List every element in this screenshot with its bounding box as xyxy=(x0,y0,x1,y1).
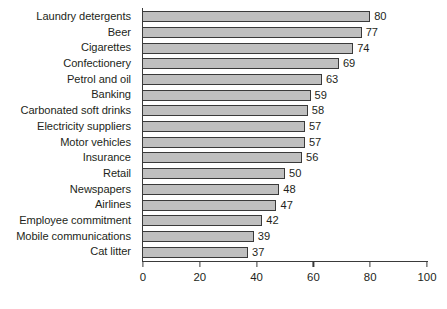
x-axis-ticks xyxy=(143,262,427,267)
bar xyxy=(143,168,285,179)
bar-row: 56 xyxy=(143,150,427,166)
bar xyxy=(143,121,305,132)
category-label: Petrol and oil xyxy=(0,72,137,88)
bar-row: 47 xyxy=(143,197,427,213)
bar xyxy=(143,137,305,148)
bar-value-label: 80 xyxy=(374,11,386,22)
bar xyxy=(143,200,276,211)
bar xyxy=(143,90,311,101)
bar-value-label: 69 xyxy=(343,58,355,69)
x-tick-label: 40 xyxy=(250,270,263,284)
bar-value-label: 74 xyxy=(357,43,369,54)
bar xyxy=(143,43,353,54)
bar-row: 80 xyxy=(143,9,427,25)
bar-value-label: 58 xyxy=(312,105,324,116)
bar-value-label: 37 xyxy=(252,247,264,258)
category-label: Laundry detergents xyxy=(0,9,137,25)
x-tick-mark xyxy=(142,262,143,267)
bar-row: 57 xyxy=(143,119,427,135)
category-label: Beer xyxy=(0,25,137,41)
bar-value-label: 77 xyxy=(366,27,378,38)
category-label: Mobile communications xyxy=(0,229,137,245)
category-axis: Laundry detergentsBeerCigarettesConfecti… xyxy=(0,9,137,260)
bar xyxy=(143,231,254,242)
bar xyxy=(143,27,362,38)
bar xyxy=(143,11,370,22)
bar-value-label: 57 xyxy=(309,137,321,148)
x-tick-label: 80 xyxy=(364,270,377,284)
bar xyxy=(143,247,248,258)
bar-row: 63 xyxy=(143,72,427,88)
bar-value-label: 57 xyxy=(309,121,321,132)
bar xyxy=(143,74,322,85)
bar-row: 48 xyxy=(143,182,427,198)
bar-row: 37 xyxy=(143,244,427,260)
bar-row: 69 xyxy=(143,56,427,72)
bar-value-label: 42 xyxy=(266,215,278,226)
bar-value-label: 47 xyxy=(280,200,292,211)
bar xyxy=(143,105,308,116)
bar-row: 42 xyxy=(143,213,427,229)
bar-value-label: 59 xyxy=(315,90,327,101)
bar-value-label: 50 xyxy=(289,168,301,179)
bar xyxy=(143,215,262,226)
category-label: Banking xyxy=(0,87,137,103)
category-label: Airlines xyxy=(0,197,137,213)
category-label: Cigarettes xyxy=(0,40,137,56)
bar-row: 58 xyxy=(143,103,427,119)
bar-value-label: 56 xyxy=(306,152,318,163)
x-tick-mark xyxy=(313,262,314,267)
category-label: Newspapers xyxy=(0,182,137,198)
bar-value-label: 48 xyxy=(283,184,295,195)
category-label: Cat litter xyxy=(0,244,137,260)
category-label: Carbonated soft drinks xyxy=(0,103,137,119)
x-tick-mark xyxy=(256,262,257,267)
x-axis-tick-labels: 020406080100 xyxy=(143,270,427,288)
bar-row: 77 xyxy=(143,25,427,41)
x-tick-label: 100 xyxy=(417,270,436,284)
x-tick-label: 20 xyxy=(193,270,206,284)
plot-area: 80777469635958575756504847423937 xyxy=(143,9,427,260)
x-tick-label: 0 xyxy=(140,270,146,284)
category-label: Motor vehicles xyxy=(0,135,137,151)
bar-row: 50 xyxy=(143,166,427,182)
x-tick-mark xyxy=(370,262,371,267)
bar xyxy=(143,58,339,69)
bar-row: 74 xyxy=(143,40,427,56)
x-tick-mark xyxy=(426,262,427,267)
bar xyxy=(143,152,302,163)
category-label: Electricity suppliers xyxy=(0,119,137,135)
bar-series: 80777469635958575756504847423937 xyxy=(143,9,427,260)
category-label: Insurance xyxy=(0,150,137,166)
category-label: Employee commitment xyxy=(0,213,137,229)
bar-chart: Laundry detergentsBeerCigarettesConfecti… xyxy=(0,0,447,309)
bar-row: 57 xyxy=(143,135,427,151)
x-tick-label: 60 xyxy=(307,270,320,284)
bar-row: 59 xyxy=(143,87,427,103)
bar-value-label: 39 xyxy=(258,231,270,242)
y-axis-line xyxy=(142,8,143,262)
category-label: Retail xyxy=(0,166,137,182)
category-label: Confectionery xyxy=(0,56,137,72)
bar-value-label: 63 xyxy=(326,74,338,85)
bar-row: 39 xyxy=(143,229,427,245)
x-tick-mark xyxy=(199,262,200,267)
bar xyxy=(143,184,279,195)
